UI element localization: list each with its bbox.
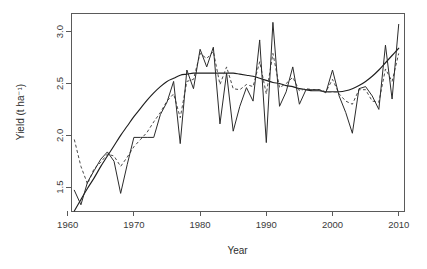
plot-frame <box>71 13 404 211</box>
x-tick-label: 1990 <box>256 219 277 230</box>
series-observed-yield <box>74 22 398 204</box>
x-tick-label: 2000 <box>322 219 343 230</box>
y-tick-label: 2.5 <box>55 77 66 90</box>
yield-trend-chart: 196019701980199020002010 1.52.02.53.0 Ye… <box>0 0 427 269</box>
x-tick-label: 1980 <box>190 219 211 230</box>
y-tick-label: 1.5 <box>55 181 66 194</box>
x-tick-label: 1970 <box>123 219 144 230</box>
y-axis-title: Yield (t ha⁻¹) <box>15 84 26 140</box>
x-tick-label: 1960 <box>57 219 78 230</box>
y-tick-label: 2.0 <box>55 129 66 142</box>
data-series-group <box>74 22 398 211</box>
series-fitted-trend <box>74 48 398 211</box>
x-tick-label: 2010 <box>388 219 409 230</box>
chart-canvas: 196019701980199020002010 1.52.02.53.0 Ye… <box>0 0 427 269</box>
y-tick-label: 3.0 <box>55 25 66 38</box>
x-axis-title: Year <box>227 245 248 256</box>
y-axis: 1.52.02.53.0 <box>55 25 72 194</box>
x-axis: 196019701980199020002010 <box>57 211 409 230</box>
plot-box-border <box>71 13 404 211</box>
